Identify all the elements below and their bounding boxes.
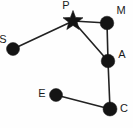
- node-p[interactable]: [63, 11, 83, 30]
- node-label-e: E: [38, 87, 45, 99]
- graph-svg: SPMAEC: [0, 0, 133, 128]
- node-c[interactable]: [103, 102, 117, 116]
- edge-s-p: [13, 21, 73, 49]
- constellation-diagram: SPMAEC: [0, 0, 133, 128]
- node-label-c: C: [120, 102, 128, 114]
- node-label-a: A: [118, 48, 126, 60]
- edge-e-c: [56, 95, 110, 109]
- node-a[interactable]: [101, 54, 115, 68]
- node-s[interactable]: [7, 43, 20, 56]
- node-label-s: S: [0, 33, 7, 45]
- node-m[interactable]: [100, 16, 114, 30]
- node-label-p: P: [62, 0, 69, 11]
- node-e[interactable]: [50, 89, 63, 102]
- node-label-m: M: [116, 4, 125, 16]
